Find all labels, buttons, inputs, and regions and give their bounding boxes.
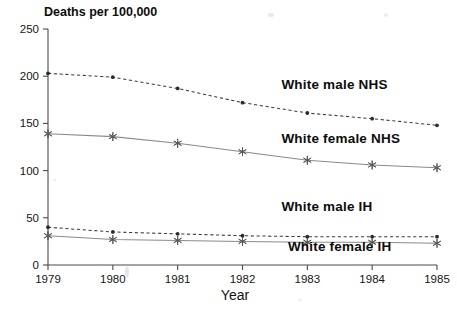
series-label-white-female-ih: White female IH [288,239,392,254]
x-tick-label: 1981 [165,273,191,285]
data-point [46,225,50,229]
data-point [111,230,115,234]
series-label-white-female-nhs: White female NHS [281,131,400,146]
y-tick-label: 250 [20,23,39,35]
y-tick-label: 50 [26,212,39,224]
line-chart: Deaths per 100,000 250200150100500 19791… [0,0,457,310]
y-axis-title: Deaths per 100,000 [44,5,157,19]
x-axis-title: Year [221,287,250,303]
data-point [111,75,115,79]
data-point [370,117,374,121]
data-point [435,235,439,239]
data-point [46,71,50,75]
x-tick-label: 1980 [100,273,126,285]
y-tick-label: 100 [20,165,39,177]
series-label-white-male-ih: White male IH [281,199,372,214]
y-tick-label: 150 [20,117,39,129]
x-tick-label: 1984 [359,273,385,285]
y-tick-label: 200 [20,70,39,82]
data-point [241,101,245,105]
data-point [176,87,180,91]
y-tick-label: 0 [33,259,39,271]
chart-background [0,0,457,310]
chart-container: Deaths per 100,000 250200150100500 19791… [0,0,457,310]
data-point [176,232,180,236]
x-tick-label: 1982 [230,273,256,285]
x-tick-label: 1979 [35,273,61,285]
x-tick-label: 1983 [295,273,321,285]
x-tick-label: 1985 [424,273,450,285]
data-point [435,123,439,127]
data-point [305,111,309,115]
series-label-white-male-nhs: White male NHS [281,77,387,92]
